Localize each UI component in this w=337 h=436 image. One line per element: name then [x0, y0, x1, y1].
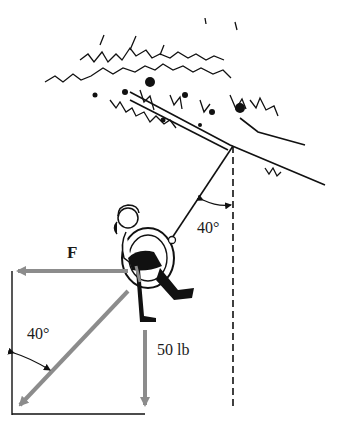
vector-angle-arc [14, 353, 50, 370]
rope-angle-arc [203, 200, 231, 205]
force-f-label: F [67, 243, 77, 262]
diagram-canvas: 40° F 50 lb 40° [0, 0, 337, 436]
weight-label: 50 lb [157, 341, 189, 358]
rope-angle-label: 40° [197, 219, 219, 236]
tree-branch [130, 92, 325, 185]
vector-angle-label: 40° [27, 325, 49, 342]
resultant-vector [20, 291, 128, 405]
